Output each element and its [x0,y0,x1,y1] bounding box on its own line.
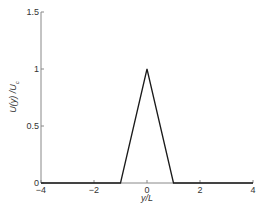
x-axis-label: y/L [140,193,153,203]
x-tick-label: −2 [89,185,99,195]
y-tick-label: 1.5 [26,7,39,17]
y-tick-label: 1 [34,64,39,74]
chart: 00.511.5 −4−2024 y/L U(y) /Uc [0,0,264,212]
x-tick-label: 2 [197,185,202,195]
x-tick-label: 4 [250,185,255,195]
data-line [41,69,253,183]
plot-area: 00.511.5 −4−2024 [26,7,255,195]
y-tick-label: 0.5 [26,121,39,131]
x-tick-label: −4 [36,185,46,195]
y-axis-label: U(y) /Uc [8,81,20,113]
